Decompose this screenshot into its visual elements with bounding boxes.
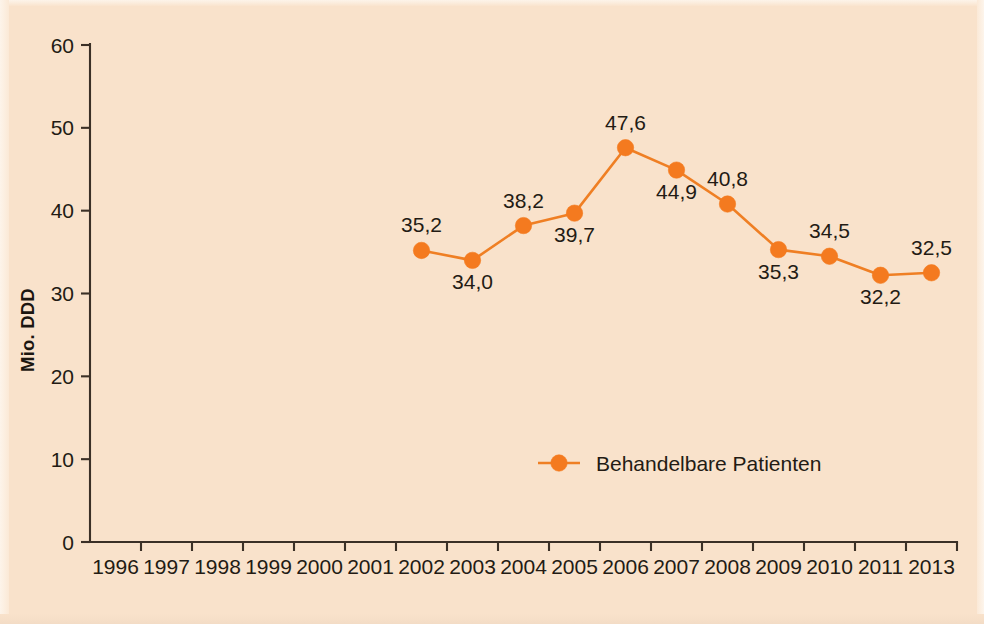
x-axis-tick-label: 2005 <box>551 555 598 578</box>
data-point-marker <box>413 242 429 258</box>
data-point-label: 35,3 <box>758 260 799 283</box>
legend-label: Behandelbare Patienten <box>596 452 821 475</box>
data-point-marker <box>566 205 582 221</box>
data-point-label: 47,6 <box>605 111 646 134</box>
data-point-marker <box>464 252 480 268</box>
data-point-label: 44,9 <box>656 180 697 203</box>
x-axis-tick-label: 2013 <box>908 555 955 578</box>
x-axis-tick-label: 1999 <box>245 555 292 578</box>
x-axis-tick-label: 2009 <box>755 555 802 578</box>
y-axis-title: Mio. DDD <box>17 288 38 372</box>
data-series-behandelbare-patienten <box>413 140 939 284</box>
x-axis-tick-label: 1996 <box>92 555 139 578</box>
data-point-label: 32,5 <box>911 236 952 259</box>
page-edge-left <box>0 0 9 624</box>
data-point-marker <box>719 196 735 212</box>
data-point-label: 39,7 <box>554 223 595 246</box>
y-axis-tick-label: 50 <box>51 116 74 139</box>
x-axis-tick-label: 2007 <box>653 555 700 578</box>
x-axis-tick-label: 2011 <box>858 555 903 578</box>
data-point-marker <box>923 265 939 281</box>
y-axis: 0102030405060 <box>51 34 90 554</box>
y-axis-tick-label: 0 <box>62 531 74 554</box>
x-axis-tick-label: 2003 <box>449 555 496 578</box>
y-axis-tick-label: 20 <box>51 365 74 388</box>
x-axis: 1996199719981999200020012002200320042005… <box>90 542 957 578</box>
y-axis-tick-label: 40 <box>51 199 74 222</box>
x-axis-tick-label: 2002 <box>398 555 445 578</box>
x-axis-tick-label: 2006 <box>602 555 649 578</box>
data-point-label: 35,2 <box>401 213 442 236</box>
data-point-label: 40,8 <box>707 167 748 190</box>
y-axis-title-text: Mio. DDD <box>17 288 38 372</box>
data-point-marker <box>617 140 633 156</box>
data-point-labels: 35,234,038,239,747,644,940,835,334,532,2… <box>401 111 952 309</box>
data-point-label: 34,5 <box>809 219 850 242</box>
x-axis-tick-label: 1997 <box>143 555 190 578</box>
data-point-marker <box>872 267 888 283</box>
y-axis-tick-label: 10 <box>51 448 74 471</box>
legend-marker-circle <box>551 455 567 471</box>
chart-figure: 0102030405060 19961997199819992000200120… <box>0 0 984 624</box>
page-edge-right <box>977 0 984 624</box>
data-point-label: 34,0 <box>452 270 493 293</box>
x-axis-tick-label: 1998 <box>194 555 241 578</box>
line-chart-plot: 0102030405060 19961997199819992000200120… <box>0 0 984 624</box>
x-axis-tick-label: 2000 <box>296 555 343 578</box>
data-point-marker <box>821 248 837 264</box>
chart-legend: Behandelbare Patienten <box>538 452 821 475</box>
x-axis-tick-label: 2001 <box>347 555 394 578</box>
page-edge-top <box>0 0 984 6</box>
data-point-marker <box>668 162 684 178</box>
data-point-label: 32,2 <box>860 285 901 308</box>
y-axis-tick-label: 60 <box>51 34 74 57</box>
data-point-label: 38,2 <box>503 189 544 212</box>
x-axis-tick-label: 2004 <box>500 555 547 578</box>
page-edge-bottom <box>0 614 984 624</box>
data-point-marker <box>770 241 786 257</box>
data-point-marker <box>515 217 531 233</box>
y-axis-tick-label: 30 <box>51 282 74 305</box>
x-axis-tick-label: 2008 <box>704 555 751 578</box>
x-axis-tick-label: 2010 <box>806 555 853 578</box>
